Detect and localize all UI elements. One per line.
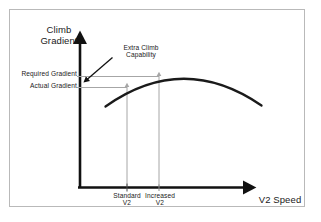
annotation-extra-climb-capability: Extra Climb Capability <box>110 44 172 59</box>
climb-gradient-curve <box>106 79 262 107</box>
label-required-gradient: Required Gradient <box>9 70 77 77</box>
label-actual-gradient: Actual Gradient <box>9 82 77 89</box>
x-axis-label: V2 Speed <box>252 195 308 206</box>
x-tick-label-increased-v2: Increased V2 <box>136 192 184 207</box>
y-axis-label: Climb Gradient <box>26 25 92 46</box>
figure-root: Climb Gradient V2 Speed Extra Climb Capa… <box>0 0 321 222</box>
